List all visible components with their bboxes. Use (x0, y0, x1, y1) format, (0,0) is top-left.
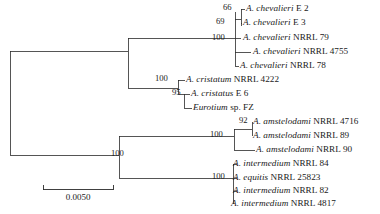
taxon-label-amst_4716: A. amstelodami NRRL 4716 (253, 117, 359, 126)
bootstrap-value-node_cris_clade: 100 (155, 74, 168, 83)
taxon-genus: A. chevalieri (243, 17, 291, 27)
taxon-genus: A. amstelodami (253, 130, 311, 140)
taxon-label-inte_84: A. intermedium NRRL 84 (233, 159, 329, 168)
phylogenetic-tree-figure: A. chevalieri E 2A. chevalieri E 3A. che… (0, 0, 380, 214)
taxon-label-chev_78: A. chevalieri NRRL 78 (240, 61, 326, 70)
scale-bar-group (43, 185, 113, 190)
taxon-genus: A. cristatum (186, 74, 232, 84)
taxon-label-cris_E6: A. cristatus E 6 (191, 89, 248, 98)
taxon-strain: E 2 (294, 3, 309, 13)
taxon-strain: NRRL 78 (288, 60, 326, 70)
taxon-strain: NRRL 25823 (268, 172, 320, 182)
taxon-genus: A. chevalieri (246, 3, 294, 13)
taxon-label-euro_FZ: Eurotium sp. FZ (193, 103, 254, 112)
taxon-strain: E 6 (233, 88, 248, 98)
bootstrap-value-node_lower_root: 100 (111, 149, 124, 158)
taxon-label-chev_E2: A. chevalieri E 2 (246, 4, 309, 13)
taxon-strain: NRRL 82 (290, 185, 328, 195)
bootstrap-value-node_chev_clade: 100 (212, 33, 225, 42)
taxon-strain: NRRL 4222 (232, 74, 280, 84)
bootstrap-value-node_chev_inner: 69 (216, 17, 225, 26)
taxon-genus: A. equitis (233, 172, 268, 182)
taxon-label-inte_4817: A. intermedium NRRL 4817 (231, 199, 336, 208)
bootstrap-value-node_amst_inner: 92 (239, 116, 248, 125)
taxon-genus: Eurotium (193, 102, 228, 112)
bootstrap-value-node_inte_clade: 100 (212, 172, 225, 181)
taxon-label-chev_79: A. chevalieri NRRL 79 (243, 33, 329, 42)
taxon-genus: A. intermedium (231, 198, 288, 208)
scale-bar-label: 0.0050 (43, 193, 113, 202)
taxon-strain: NRRL 84 (290, 158, 328, 168)
taxon-genus: A. intermedium (233, 185, 290, 195)
bootstrap-value-node_cris_euro: 95 (172, 88, 181, 97)
taxon-label-chev_E3: A. chevalieri E 3 (243, 18, 306, 27)
bootstrap-value-node_chev_E2E3: 66 (223, 3, 232, 12)
taxon-strain: NRRL 4716 (311, 116, 359, 126)
taxon-label-amst_89: A. amstelodami NRRL 89 (253, 131, 349, 140)
taxon-label-cris_4222: A. cristatum NRRL 4222 (186, 75, 279, 84)
taxon-genus: A. amstelodami (253, 116, 311, 126)
taxon-strain: E 3 (291, 17, 306, 27)
taxon-genus: A. amstelodami (256, 144, 314, 154)
bootstrap-value-node_amst_clade: 100 (210, 130, 223, 139)
taxon-genus: A. intermedium (233, 158, 290, 168)
taxon-label-inte_82: A. intermedium NRRL 82 (233, 186, 329, 195)
scale-bar-line (43, 185, 113, 190)
taxon-strain: NRRL 4755 (301, 46, 349, 56)
taxon-label-amst_90: A. amstelodami NRRL 90 (256, 145, 352, 154)
taxon-genus: A. chevalieri (253, 46, 301, 56)
taxon-strain: sp. FZ (228, 102, 254, 112)
taxon-strain: NRRL 79 (291, 32, 329, 42)
taxon-strain: NRRL 90 (314, 144, 352, 154)
taxon-strain: NRRL 4817 (288, 198, 336, 208)
taxon-genus: A. cristatus (191, 88, 233, 98)
taxon-genus: A. chevalieri (240, 60, 288, 70)
taxon-strain: NRRL 89 (311, 130, 349, 140)
taxon-label-equi_25823: A. equitis NRRL 25823 (233, 173, 321, 182)
taxon-genus: A. chevalieri (243, 32, 291, 42)
taxon-label-chev_4755: A. chevalieri NRRL 4755 (253, 47, 348, 56)
